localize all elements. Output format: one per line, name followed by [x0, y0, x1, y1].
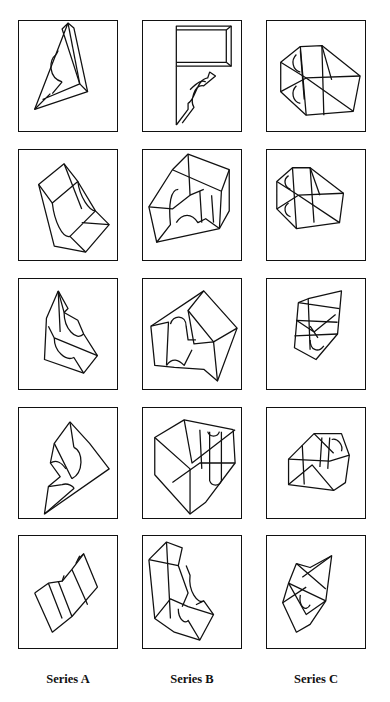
double-notch-wireframe	[267, 150, 365, 260]
series-c-label: Series C	[266, 672, 366, 687]
arched-box-rotated	[143, 279, 241, 389]
tilted-notch-wireframe	[267, 536, 365, 648]
figure-cell-r5-c	[266, 535, 366, 649]
figure-cell-r2-b	[142, 149, 242, 261]
wedge-notch-shape	[19, 21, 117, 131]
figure-cell-r2-a	[18, 149, 118, 261]
concave-block-rotated	[19, 279, 117, 389]
figure-cell-r1-a	[18, 20, 118, 132]
grooved-slab-shape	[19, 536, 117, 648]
figure-cell-r3-a	[18, 278, 118, 390]
figure-cell-r3-c	[266, 278, 366, 390]
figure-cell-r5-a	[18, 535, 118, 649]
wedge-notch-rotated	[19, 408, 117, 518]
compact-notch-wireframe	[267, 408, 365, 518]
figure-cell-r4-a	[18, 407, 118, 519]
double-notch-wireframe	[267, 21, 365, 131]
concave-block-shape	[19, 150, 117, 260]
slab-curve-shape	[143, 21, 241, 131]
half-cylinder-v-block	[143, 408, 241, 518]
circle-notch-rotated	[267, 279, 365, 389]
figure-cell-r4-b	[142, 407, 242, 519]
series-b-label: Series B	[142, 672, 242, 687]
l-shaped-concave-block	[143, 536, 241, 648]
figure-cell-r5-b	[142, 535, 242, 649]
figure-cell-r1-c	[266, 20, 366, 132]
series-a-label: Series A	[18, 672, 118, 687]
figure-cell-r4-c	[266, 407, 366, 519]
figure-cell-r3-b	[142, 278, 242, 390]
figure-cell-r2-c	[266, 149, 366, 261]
figure-cell-r1-b	[142, 20, 242, 132]
arched-box-shape	[143, 150, 241, 260]
